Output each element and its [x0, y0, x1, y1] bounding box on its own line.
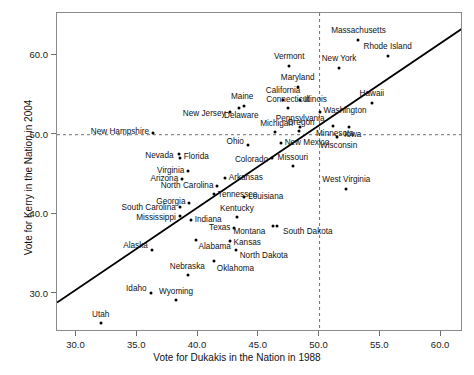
point-label: West Virginia [322, 176, 370, 184]
x-tick-mark [197, 331, 198, 336]
x-tick-label: 45.0 [249, 339, 268, 350]
y-tick-mark [51, 292, 56, 293]
x-tick-label: 35.0 [127, 339, 146, 350]
data-point [331, 124, 334, 127]
point-label: Idaho [126, 285, 147, 293]
point-label: Oregon [287, 119, 314, 127]
data-point [175, 299, 178, 302]
data-point [370, 101, 373, 104]
data-point [99, 322, 102, 325]
data-point [187, 273, 190, 276]
data-point [338, 66, 341, 69]
data-point [243, 105, 246, 108]
data-point [178, 206, 181, 209]
data-point [178, 156, 181, 159]
x-tick-mark [318, 331, 319, 336]
data-point [178, 214, 181, 217]
point-label: Iowa [344, 131, 361, 139]
y-tick-mark [51, 133, 56, 134]
data-point [216, 184, 219, 187]
plot-area: MassachusettsRhode IslandNew YorkVermont… [56, 12, 462, 331]
x-tick-label: 40.0 [188, 339, 207, 350]
data-point [286, 106, 289, 109]
y-tick-label: 60.0 [14, 49, 48, 60]
data-point [187, 169, 190, 172]
point-label: Oklahoma [217, 265, 254, 273]
data-point [223, 177, 226, 180]
y-tick-label: 40.0 [14, 208, 48, 219]
point-label: Colorado [235, 156, 268, 164]
point-label: North Dakota [240, 252, 288, 260]
x-tick-label: 60.0 [431, 339, 450, 350]
data-point [291, 164, 294, 167]
data-point [297, 129, 300, 132]
data-point [272, 225, 275, 228]
point-label: Wisconsin [320, 142, 357, 150]
point-label: Tennessee [218, 191, 258, 199]
point-label: Missouri [278, 154, 308, 162]
data-point [228, 110, 231, 113]
point-label: Alaska [123, 242, 148, 250]
point-label: Florida [184, 153, 209, 161]
x-tick-mark [75, 331, 76, 336]
data-point [246, 144, 249, 147]
point-label: Delaware [224, 112, 259, 120]
point-label: Connecticut [266, 96, 309, 104]
point-label: Maine [231, 93, 253, 101]
data-point [177, 152, 180, 155]
data-point [189, 218, 192, 221]
point-label: Washington [324, 107, 367, 115]
x-tick-mark [136, 331, 137, 336]
data-point [150, 249, 153, 252]
data-points-layer: MassachusettsRhode IslandNew YorkVermont… [57, 13, 461, 330]
data-point [271, 156, 274, 159]
data-point [212, 193, 215, 196]
point-label: Hawaii [360, 90, 385, 98]
data-point [345, 187, 348, 190]
data-point [152, 132, 155, 135]
y-tick-mark [51, 54, 56, 55]
point-label: South Carolina [122, 204, 176, 212]
scatter-plot-figure: Vote for Kerry in the Nation in 2004 Mas… [0, 0, 474, 375]
point-label: Nebraska [170, 263, 205, 271]
x-tick-label: 30.0 [66, 339, 85, 350]
point-label: Vermont [274, 53, 305, 61]
point-label: Wyoming [159, 288, 193, 296]
data-point [386, 54, 389, 57]
point-label: Kentucky [220, 205, 254, 213]
point-label: Mississippi [136, 214, 176, 222]
point-label: Ohio [227, 138, 244, 146]
x-tick-mark [379, 331, 380, 336]
data-point [238, 107, 241, 110]
data-point [212, 260, 215, 263]
y-tick-label: 30.0 [14, 287, 48, 298]
point-label: South Dakota [283, 228, 333, 236]
data-point [279, 141, 282, 144]
x-axis-title: Vote for Dukakis in the Nation in 1988 [0, 352, 474, 363]
point-label: Texas [209, 224, 230, 232]
point-label: Kansas [234, 239, 261, 247]
point-label: Maryland [281, 74, 315, 82]
y-tick-mark [51, 213, 56, 214]
data-point [335, 136, 338, 139]
x-tick-label: 50.0 [309, 339, 328, 350]
x-tick-mark [440, 331, 441, 336]
point-label: New Hampshire [91, 128, 149, 136]
point-label: New Jersey [183, 110, 226, 118]
point-label: New York [322, 55, 357, 63]
point-label: North Carolina [161, 182, 214, 190]
y-axis-title: Vote for Kerry in the Nation in 2004 [23, 88, 34, 268]
data-point [357, 39, 360, 42]
data-point [276, 225, 279, 228]
point-label: Utah [92, 311, 109, 319]
data-point [288, 65, 291, 68]
point-label: Montana [233, 228, 265, 236]
data-point [235, 215, 238, 218]
data-point [149, 292, 152, 295]
point-label: Rhode Island [364, 43, 412, 51]
data-point [194, 238, 197, 241]
data-point [273, 131, 276, 134]
data-point [234, 249, 237, 252]
y-tick-label: 50.0 [14, 128, 48, 139]
point-label: Alabama [199, 243, 231, 251]
